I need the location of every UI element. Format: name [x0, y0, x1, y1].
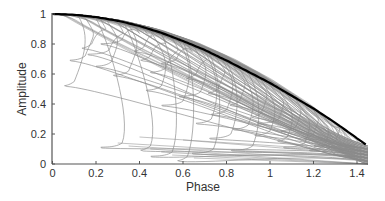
x-tick-label: 0.6 [175, 167, 190, 179]
y-tick-label: 0 [40, 158, 46, 170]
x-tick-label: 1 [267, 167, 273, 179]
x-axis-label: Phase [186, 180, 220, 194]
x-axis: 00.20.40.60.811.21.4 [49, 161, 368, 179]
y-axis: 00.20.40.60.81 [31, 8, 55, 170]
x-tick-label: 0.8 [219, 167, 234, 179]
y-tick-label: 0.4 [31, 98, 46, 110]
x-tick-label: 0 [49, 167, 55, 179]
y-tick-label: 0.8 [31, 38, 46, 50]
x-tick-label: 1.2 [306, 167, 321, 179]
y-tick-label: 1 [40, 8, 46, 20]
x-tick-label: 0.4 [132, 167, 147, 179]
x-tick-label: 0.2 [88, 167, 103, 179]
y-tick-label: 0.2 [31, 128, 46, 140]
x-tick-label: 1.4 [349, 167, 364, 179]
y-tick-label: 0.6 [31, 68, 46, 80]
chart: 00.20.40.60.81 00.20.40.60.811.21.4 Phas… [0, 0, 385, 201]
y-axis-label: Amplitude [15, 62, 29, 116]
plot-area [53, 14, 368, 164]
